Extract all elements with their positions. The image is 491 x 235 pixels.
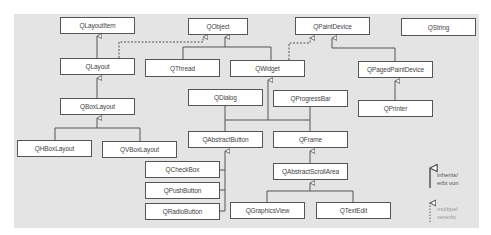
- legend-multiple-line1: multipel: [437, 205, 458, 213]
- node-qstring: QString: [401, 18, 476, 36]
- legend-inherits-line2: erbt von: [437, 179, 459, 187]
- node-qcheckbox: QCheckBox: [145, 161, 220, 178]
- node-qtextedit: QTextEdit: [316, 202, 391, 219]
- node-qvboxlayout: QVBoxLayout: [102, 141, 177, 158]
- node-qprogressbar: QProgressBar: [273, 90, 348, 107]
- node-qlayout: QLayout: [60, 58, 135, 75]
- legend-inherits-label: inherits/ erbt von: [437, 171, 459, 187]
- node-qdialog: QDialog: [188, 89, 263, 106]
- legend-multiple-label: multipel vererbt: [437, 205, 458, 221]
- node-qprinter: QPrinter: [358, 100, 433, 117]
- legend-multiple-line2: vererbt: [437, 213, 458, 221]
- node-qabstractbutton: QAbstractButton: [188, 131, 263, 148]
- legend-inherits-line1: inherits/: [437, 171, 459, 179]
- node-qpagedpaintdevice: QPagedPaintDevice: [358, 61, 433, 78]
- node-qabstractscrollarea: QAbstractScrollArea: [273, 163, 348, 180]
- node-qpaintdevice: QPaintDevice: [295, 17, 370, 35]
- node-qobject: QObject: [188, 18, 248, 35]
- node-qhboxlayout: QHBoxLayout: [17, 140, 92, 157]
- node-qlayoutitem: QLayoutItem: [60, 17, 135, 34]
- node-qboxlayout: QBoxLayout: [60, 98, 135, 115]
- node-qwidget: QWidget: [230, 60, 305, 77]
- node-qgraphicsview: QGraphicsView: [230, 202, 305, 219]
- node-qthread: QThread: [145, 59, 220, 77]
- node-qframe: QFrame: [273, 131, 348, 148]
- node-qradiobutton: QRadioButton: [145, 203, 220, 220]
- node-qpushbutton: QPushButton: [145, 182, 220, 199]
